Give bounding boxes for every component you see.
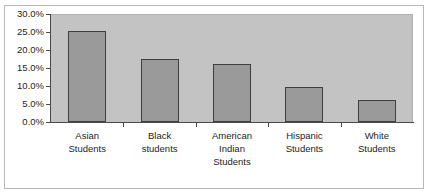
y-axis-tick-label: 15.0%: [0, 63, 44, 73]
bar-chart-figure: 0.0%5.0%10.0%15.0%20.0%25.0%30.0% AsianS…: [0, 0, 428, 194]
x-axis-category-label-line: White: [341, 129, 413, 142]
x-axis-category-label-line: Students: [51, 142, 123, 155]
y-axis-tick-mark: [46, 122, 50, 123]
y-axis-tick-label: 0.0%: [0, 117, 44, 127]
bars-layer: [51, 15, 412, 122]
x-axis-category-label: AsianStudents: [51, 129, 123, 155]
bar: [68, 31, 106, 122]
y-axis-tick-mark: [46, 32, 50, 33]
y-axis-tick-mark: [46, 14, 50, 15]
x-axis-labels: AsianStudentsBlackstudentsAmericanIndian…: [51, 129, 413, 189]
x-axis-category-label-line: Students: [196, 155, 268, 168]
x-axis-tick-mark: [268, 123, 269, 127]
y-axis-tick-mark: [46, 68, 50, 69]
x-axis-tick-mark: [123, 123, 124, 127]
x-axis-category-label: AmericanIndianStudents: [196, 129, 268, 168]
x-axis-category-label-line: Asian: [51, 129, 123, 142]
y-axis-tick-mark: [46, 86, 50, 87]
x-axis-category-label-line: Hispanic: [268, 129, 340, 142]
x-axis-category-label-line: American: [196, 129, 268, 142]
x-axis-category-label: WhiteStudents: [341, 129, 413, 155]
y-axis-tick-label: 5.0%: [0, 99, 44, 109]
bar-slot: [196, 15, 268, 122]
bar: [141, 59, 179, 122]
x-axis-category-label-line: Indian: [196, 142, 268, 155]
x-axis-category-label: Blackstudents: [123, 129, 195, 155]
bar-slot: [341, 15, 413, 122]
y-axis-tick-label: 20.0%: [0, 45, 44, 55]
y-axis-tick-mark: [46, 104, 50, 105]
y-axis-labels: 0.0%5.0%10.0%15.0%20.0%25.0%30.0%: [0, 0, 44, 194]
x-axis-tick-mark: [196, 123, 197, 127]
x-axis-tick-mark: [341, 123, 342, 127]
x-axis-category-label: HispanicStudents: [268, 129, 340, 155]
bar: [358, 100, 396, 122]
y-axis-tick-label: 10.0%: [0, 81, 44, 91]
x-axis-category-label-line: Students: [341, 142, 413, 155]
y-axis-tick-label: 25.0%: [0, 27, 44, 37]
x-axis-category-label-line: students: [123, 142, 195, 155]
bar-slot: [51, 15, 123, 122]
bar: [213, 64, 251, 122]
bar-slot: [268, 15, 340, 122]
x-axis-line: [50, 122, 414, 123]
y-axis-tick-mark: [46, 50, 50, 51]
y-axis-tick-label: 30.0%: [0, 9, 44, 19]
bar-slot: [123, 15, 195, 122]
plot-area: [51, 14, 413, 122]
bar: [285, 87, 323, 122]
x-axis-category-label-line: Students: [268, 142, 340, 155]
x-axis-category-label-line: Black: [123, 129, 195, 142]
